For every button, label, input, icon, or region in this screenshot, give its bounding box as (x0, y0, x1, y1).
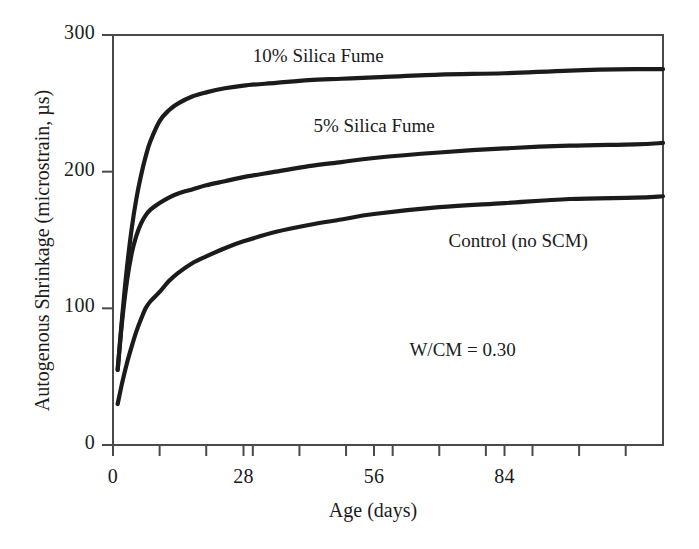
y-tick-label-200: 200 (64, 158, 95, 181)
x-tick-label-56: 56 (364, 465, 385, 488)
series-label-10-silica-fume: 10% Silica Fume (253, 45, 384, 67)
x-axis-title: Age (days) (329, 499, 417, 522)
plot-area (0, 0, 699, 549)
series-label-control: Control (no SCM) (449, 230, 588, 252)
y-tick-label-0: 0 (85, 431, 95, 454)
y-tick-label-100: 100 (64, 294, 95, 317)
series-curve-1 (118, 143, 663, 370)
series-label-5-silica-fume: 5% Silica Fume (313, 115, 434, 137)
x-axis-ticks (113, 445, 626, 456)
y-tick-label-300: 300 (64, 21, 95, 44)
y-axis-ticks (102, 35, 113, 445)
series-curve-2 (118, 196, 663, 404)
wcm-annotation: W/CM = 0.30 (409, 339, 515, 361)
x-tick-label-28: 28 (233, 465, 254, 488)
y-axis-title: Autogenous Shrinkage (microstrain, µs) (31, 41, 54, 461)
chart-figure: 0 100 200 300 0 28 56 84 Autogenous Shri… (0, 0, 699, 549)
x-tick-label-0: 0 (108, 465, 118, 488)
x-tick-label-84: 84 (494, 465, 515, 488)
